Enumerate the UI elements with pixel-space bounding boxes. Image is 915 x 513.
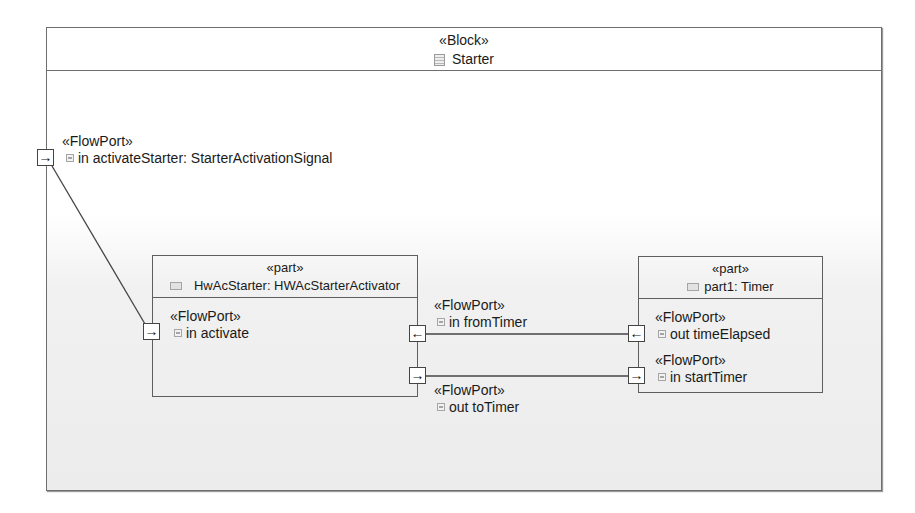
- port-stereotype: «FlowPort»: [434, 297, 527, 314]
- port-timeElapsed-label: «FlowPort» out timeElapsed: [655, 309, 770, 343]
- part-header: «part» part1: Timer: [639, 257, 822, 299]
- port-activateStarter-label: «FlowPort» in activateStarter: StarterAc…: [62, 133, 332, 167]
- port-stereotype: «FlowPort»: [434, 382, 519, 399]
- port-activateStarter[interactable]: →: [37, 149, 54, 166]
- part-stereotype: «part»: [153, 259, 417, 277]
- port-name: out timeElapsed: [670, 326, 770, 342]
- port-stereotype: «FlowPort»: [62, 133, 332, 150]
- port-name: in activateStarter: StarterActivationSig…: [78, 150, 332, 166]
- flowport-icon: [437, 403, 445, 411]
- part-icon: [170, 282, 182, 290]
- port-name: in startTimer: [670, 369, 747, 385]
- port-name: in fromTimer: [449, 314, 527, 330]
- part-header: «part» HwAcStarter: HWAcStarterActivator: [153, 256, 417, 298]
- port-name: out toTimer: [449, 399, 519, 415]
- port-stereotype: «FlowPort»: [170, 308, 249, 325]
- flowport-icon: [658, 373, 666, 381]
- port-name: in activate: [186, 325, 249, 341]
- port-fromTimer[interactable]: ←: [409, 325, 426, 342]
- port-activate[interactable]: →: [143, 323, 160, 340]
- port-timeElapsed[interactable]: ←: [628, 325, 645, 342]
- port-toTimer[interactable]: →: [409, 367, 426, 384]
- port-stereotype: «FlowPort»: [655, 309, 770, 326]
- port-stereotype: «FlowPort»: [655, 352, 747, 369]
- port-fromTimer-label: «FlowPort» in fromTimer: [434, 297, 527, 331]
- connector-activateStarter-activate[interactable]: [52, 166, 145, 324]
- port-toTimer-label: «FlowPort» out toTimer: [434, 382, 519, 416]
- port-startTimer[interactable]: →: [628, 367, 645, 384]
- port-startTimer-label: «FlowPort» in startTimer: [655, 352, 747, 386]
- flowport-icon: [437, 318, 445, 326]
- flowport-icon: [66, 154, 74, 162]
- port-activate-label: «FlowPort» in activate: [170, 308, 249, 342]
- part-name: HwAcStarter: HWAcStarterActivator: [194, 277, 400, 295]
- flowport-icon: [658, 330, 666, 338]
- part-name: part1: Timer: [704, 278, 773, 296]
- flowport-icon: [174, 329, 182, 337]
- part-stereotype: «part»: [639, 260, 822, 278]
- part-icon: [687, 283, 699, 291]
